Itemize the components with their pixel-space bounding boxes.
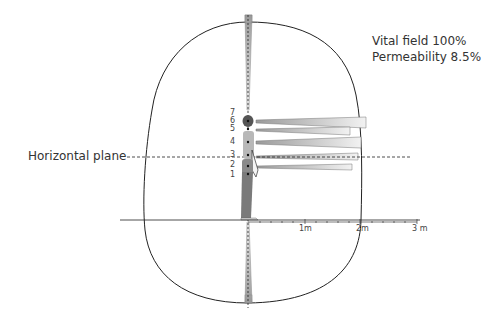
point-label-3: 3 — [230, 150, 235, 159]
horizontal-beams — [256, 117, 366, 170]
person-figure — [241, 115, 258, 220]
vital-field-label: Vital field 100% — [372, 33, 481, 49]
ruler-tick-2m: 2m — [356, 224, 369, 233]
point-label-2: 2 — [230, 160, 235, 169]
point-label-4: 4 — [230, 137, 235, 146]
horizontal-plane-label: Horizontal plane — [28, 149, 126, 163]
field-info: Vital field 100% Permeability 8.5% — [372, 33, 481, 65]
point-label-5: 5 — [230, 124, 235, 133]
ruler-tick-1m: 1m — [299, 224, 312, 233]
point-label-1: 1 — [230, 170, 235, 179]
permeability-label: Permeability 8.5% — [372, 49, 481, 65]
ruler-tick-3m: 3 m — [412, 224, 427, 233]
upward-beam — [245, 15, 252, 110]
downward-beam — [245, 222, 252, 303]
